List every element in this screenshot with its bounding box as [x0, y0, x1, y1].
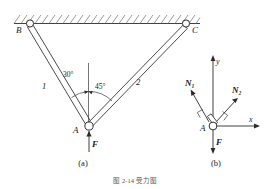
angle-arc-45 — [89, 91, 113, 101]
right-angle-mark-n2 — [223, 112, 228, 121]
force-label-f-b: F — [215, 137, 222, 147]
angle-label-30: 30° — [63, 70, 74, 79]
ceiling-support — [14, 15, 200, 24]
subfigure-label-a: (a) — [78, 158, 88, 168]
subfigure-a: 30° 45° B C A 1 2 F (a) — [14, 15, 200, 168]
point-label-a: A — [72, 125, 79, 135]
member-2 — [88, 25, 187, 126]
member-1 — [28, 24, 92, 126]
figure-caption: 图 2-14 受力图 — [113, 176, 156, 185]
member-label-2: 2 — [136, 77, 141, 87]
load-force-f-a: F — [86, 131, 98, 152]
member-label-1: 1 — [42, 81, 46, 91]
ceiling-hatching — [14, 15, 200, 24]
subfigure-b: y x N₁ N₂ — [184, 55, 260, 168]
right-angle-mark-n1 — [197, 110, 202, 118]
statics-figure: 30° 45° B C A 1 2 F (a) — [0, 0, 270, 189]
force-vector-f-b: F — [211, 130, 222, 154]
subfigure-label-b: (b) — [211, 158, 221, 168]
angle-label-45: 45° — [95, 82, 106, 91]
axis-label-x: x — [248, 115, 253, 124]
point-label-c: C — [192, 25, 199, 35]
load-label-f: F — [91, 139, 98, 149]
axis-label-y: y — [215, 57, 220, 66]
pin-joint-a — [85, 122, 93, 130]
force-vector-n1: N₁ — [184, 78, 209, 122]
point-label-b: B — [16, 25, 22, 35]
force-label-n1: N₁ — [184, 78, 195, 88]
pin-support-c — [182, 20, 189, 27]
force-vector-n2: N₂ — [216, 85, 242, 122]
angle-arc-30-arrowhead — [84, 91, 88, 95]
figure-canvas: 30° 45° B C A 1 2 F (a) — [0, 0, 270, 189]
pin-support-b — [26, 20, 33, 27]
force-label-n2: N₂ — [231, 85, 242, 95]
origin-label-a: A — [199, 123, 206, 133]
